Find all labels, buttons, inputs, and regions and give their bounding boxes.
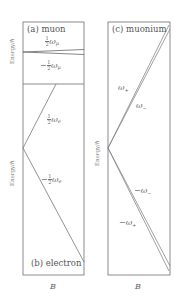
- muonium-neg-omega-plus: [108, 148, 169, 271]
- neg-omega-plus-label: −ω+: [119, 219, 136, 228]
- muon-upper-level: [23, 50, 84, 53]
- electron-lower-level: [23, 148, 84, 262]
- muon-upper-label: 12ωμ: [45, 36, 59, 47]
- electron-upper-label: 12ωe: [47, 114, 61, 125]
- muon-ylabel: Energy/ℏ: [9, 39, 15, 64]
- neg-omega-minus-label: −ω−: [134, 187, 151, 196]
- omega-minus-label: ω−: [136, 102, 147, 111]
- right-panel-frame: [108, 22, 170, 275]
- muon-lower-label: −12ωμ: [40, 60, 61, 71]
- panel-c-title: (c) muonium: [112, 25, 166, 34]
- energy-level-diagram: [0, 0, 179, 303]
- electron-lower-label: −12ωe: [41, 174, 61, 185]
- muonium-ylabel: Energy/ℏ: [94, 141, 100, 166]
- muon-lower-level: [23, 52, 84, 55]
- electron-xlabel: B: [50, 283, 56, 291]
- omega-plus-label: ω+: [118, 84, 129, 93]
- electron-ylabel: Energy/ℏ: [9, 161, 15, 186]
- panel-a-title: (a) muon: [27, 25, 66, 34]
- muonium-neg-omega-minus: [108, 148, 170, 266]
- panel-b-title: (b) electron: [31, 259, 81, 268]
- muonium-xlabel: B: [135, 283, 141, 291]
